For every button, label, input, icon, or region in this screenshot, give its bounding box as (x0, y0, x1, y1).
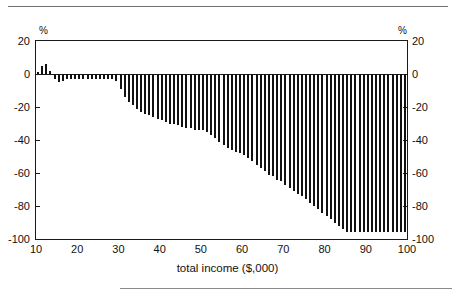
bottom-divider (120, 288, 452, 289)
bar (367, 74, 369, 232)
x-label-30: 30 (103, 244, 133, 255)
x-label-10: 10 (21, 244, 51, 255)
bar (148, 74, 150, 115)
bar (132, 74, 134, 105)
x-label-90: 90 (351, 244, 381, 255)
bar (214, 74, 216, 138)
bar (169, 74, 171, 124)
page-header-text (40, 0, 330, 5)
bar (115, 74, 117, 81)
bar (218, 74, 220, 142)
bar (338, 74, 340, 226)
y-label-left--20: -20 (0, 102, 30, 113)
y-label-right--40: -40 (412, 135, 446, 146)
bar (231, 74, 233, 150)
bar (260, 74, 262, 168)
bar (173, 74, 175, 124)
y-label-right--80: -80 (412, 201, 446, 212)
bar (309, 74, 311, 203)
y-label-right--20: -20 (412, 102, 446, 113)
x-axis-title: total income ($,000) (0, 262, 455, 274)
y-label-left-20: 20 (0, 36, 30, 47)
bar (264, 74, 266, 171)
bar (198, 74, 200, 130)
bar (161, 74, 163, 120)
bar-series (36, 41, 407, 239)
bar (87, 74, 89, 79)
bar (45, 64, 47, 74)
plot-area (36, 41, 407, 239)
bar (396, 74, 398, 232)
bar (247, 74, 249, 158)
y-label-left-0: 0 (0, 69, 30, 80)
bar (272, 74, 274, 176)
bar (268, 74, 270, 175)
bar (177, 74, 179, 125)
bar (383, 74, 385, 232)
bar (289, 74, 291, 188)
bar (185, 74, 187, 128)
bar (243, 74, 245, 155)
bar (387, 74, 389, 232)
bar (404, 74, 406, 232)
top-divider (8, 6, 448, 7)
bar (313, 74, 315, 206)
y-label-right--60: -60 (412, 168, 446, 179)
bar (165, 74, 167, 122)
bar (99, 74, 101, 79)
bar (251, 74, 253, 161)
bar (74, 74, 76, 79)
bar (202, 74, 204, 130)
x-label-80: 80 (310, 244, 340, 255)
bar (346, 74, 348, 232)
bar (326, 74, 328, 216)
bar (379, 74, 381, 232)
bar (210, 74, 212, 135)
bar (321, 74, 323, 213)
bar (297, 74, 299, 194)
bar (91, 74, 93, 79)
bar (301, 74, 303, 196)
bar (363, 74, 365, 232)
bar (140, 74, 142, 112)
x-label-60: 60 (227, 244, 257, 255)
bar (152, 74, 154, 117)
bar (256, 74, 258, 165)
bar (276, 74, 278, 180)
bar (70, 74, 72, 79)
x-label-20: 20 (62, 244, 92, 255)
bar (62, 74, 64, 81)
bar (206, 74, 208, 132)
bar (317, 74, 319, 209)
chart-page: % % 200-20-40-60-80-100 200-20-40-60-80-… (0, 0, 455, 297)
y-label-right-0: 0 (412, 69, 446, 80)
bar (239, 74, 241, 153)
y-axis-unit-right: % (398, 26, 407, 36)
bar (58, 74, 60, 82)
y-label-left--80: -80 (0, 201, 30, 212)
bar (37, 72, 39, 74)
bar (400, 74, 402, 232)
bar (223, 74, 225, 145)
y-axis-unit-left: % (39, 26, 48, 36)
bar (82, 74, 84, 79)
bar (194, 74, 196, 130)
bar (330, 74, 332, 219)
bar (293, 74, 295, 191)
x-label-70: 70 (268, 244, 298, 255)
bar (190, 74, 192, 128)
x-label-40: 40 (145, 244, 175, 255)
bar (136, 74, 138, 109)
bar (95, 74, 97, 79)
bar (392, 74, 394, 232)
bar (157, 74, 159, 119)
plot-frame (35, 40, 408, 240)
bar (280, 74, 282, 181)
bar (41, 66, 43, 74)
bar (235, 74, 237, 152)
bar (354, 74, 356, 232)
bar (54, 74, 56, 79)
bar (342, 74, 344, 229)
bar (128, 74, 130, 102)
bar (111, 74, 113, 79)
